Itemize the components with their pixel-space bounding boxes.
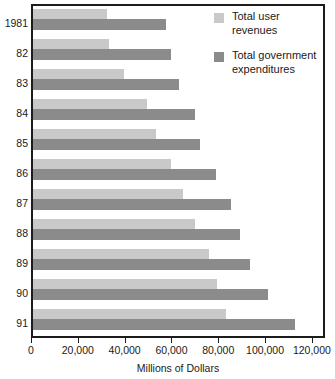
y-axis-label-87: 87 [0,198,28,209]
x-tick-label: 60,000 [155,344,187,356]
legend-label-line1: Total government [232,49,316,61]
x-tick-mark [125,338,126,343]
bar-government-expenditures [33,169,216,180]
bar-user-revenues [33,309,226,319]
bar-government-expenditures [33,229,240,240]
dark-swatch-icon [214,52,224,62]
legend-item-user-revenues: Total user revenues [214,10,332,37]
x-tick-mark [312,338,313,343]
x-tick-mark [265,338,266,343]
legend-label-line2: expenditures [232,63,295,75]
bar-government-expenditures [33,139,200,150]
bar-user-revenues [33,129,156,139]
x-axis-ticks: 020,00040,00060,00080,000100,000120,000 [0,338,335,360]
y-axis-label-90: 90 [0,288,28,299]
chart-legend: Total user revenues Total government exp… [214,10,332,88]
bar-user-revenues [33,279,217,289]
y-axis-label-84: 84 [0,108,28,119]
bar-chart: 198182838485868788899091 020,00040,00060… [0,0,335,379]
y-axis-label-88: 88 [0,228,28,239]
bar-government-expenditures [33,49,171,60]
x-tick-label: 40,000 [109,344,141,356]
bar-user-revenues [33,69,124,79]
bar-user-revenues [33,219,195,229]
bar-user-revenues [33,9,107,19]
bar-user-revenues [33,99,147,109]
y-axis-label-85: 85 [0,138,28,149]
y-axis-label-1981: 1981 [0,18,28,29]
x-axis-title: Millions of Dollars [31,362,325,374]
bar-user-revenues [33,249,209,259]
y-axis-label-91: 91 [0,318,28,329]
bar-user-revenues [33,39,109,49]
legend-label-line2: revenues [232,24,277,36]
bar-government-expenditures [33,79,179,90]
bar-user-revenues [33,189,183,199]
x-tick-label: 120,000 [293,344,331,356]
legend-label-user-revenues: Total user revenues [232,10,332,37]
y-axis-label-83: 83 [0,78,28,89]
x-tick-label: 80,000 [202,344,234,356]
bar-user-revenues [33,159,171,169]
y-axis-category-labels: 198182838485868788899091 [0,4,28,338]
legend-label-line1: Total user [232,10,280,22]
x-tick-label: 20,000 [62,344,94,356]
light-swatch-icon [214,13,224,23]
bar-government-expenditures [33,199,231,210]
legend-label-government-expenditures: Total government expenditures [232,49,332,76]
bar-government-expenditures [33,319,295,330]
y-axis-label-86: 86 [0,168,28,179]
x-tick-mark [171,338,172,343]
legend-item-government-expenditures: Total government expenditures [214,49,332,76]
x-tick-mark [78,338,79,343]
x-tick-mark [218,338,219,343]
y-axis-label-89: 89 [0,258,28,269]
bar-government-expenditures [33,109,195,120]
bar-government-expenditures [33,289,268,300]
bar-government-expenditures [33,259,250,270]
y-axis-label-82: 82 [0,48,28,59]
x-tick-label: 100,000 [246,344,284,356]
x-tick-mark [31,338,32,343]
x-tick-label: 0 [28,344,34,356]
bar-government-expenditures [33,19,166,30]
